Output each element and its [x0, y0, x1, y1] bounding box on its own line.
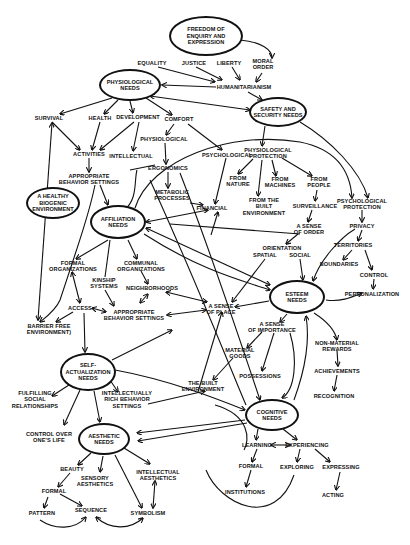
ellipse-node-aesthetic: AESTHETIC NEEDS: [78, 423, 130, 455]
edge-arrow: [60, 494, 82, 506]
text-node-from-nature: FROM NATURE: [226, 175, 250, 188]
edge-arrow: [258, 160, 262, 196]
text-node-beauty: BEAUTY: [60, 466, 84, 472]
edge-arrow: [96, 517, 143, 527]
edge-arrow: [84, 313, 85, 352]
edge-arrow: [235, 301, 269, 307]
edge-arrow: [365, 250, 372, 270]
ellipse-node-physiological: PHYSIOLOGICAL NEEDS: [99, 69, 161, 101]
text-node-ergonomics: ERGONOMICS: [148, 165, 188, 171]
text-node-financial: FINANCIAL: [196, 205, 227, 211]
edge-arrow: [64, 390, 80, 425]
node-label: COGNITIVE NEEDS: [257, 409, 288, 422]
text-node-liberty: LIBERTY: [217, 60, 242, 66]
text-node-built-env: THE BUILT ENVIRONMENT: [182, 380, 224, 393]
edge-arrow: [313, 229, 355, 281]
node-label: A HEALTHY BIOGENIC ENVIRONMENT: [32, 193, 73, 212]
edge-arrow: [358, 230, 362, 241]
text-node-privacy: PRIVACY: [349, 223, 374, 229]
text-node-physiological-comfort: PHYSIOLOGICAL: [140, 136, 188, 142]
edge-arrow: [76, 240, 108, 259]
edge-arrow: [314, 313, 337, 340]
edge-arrow: [104, 100, 118, 114]
text-node-from-people: FROM PEOPLE: [307, 176, 330, 189]
node-label: AESTHETIC NEEDS: [88, 433, 120, 446]
text-node-appropriate-behavior-1: APPROPRIATE BEHAVIOR SETTINGS: [59, 173, 119, 186]
edge-arrow: [124, 170, 137, 210]
edge-arrow: [105, 240, 110, 277]
text-node-control-life: CONTROL OVER ONE'S LIFE: [26, 431, 72, 444]
text-node-fulfilling: FULFILLING SOCIAL RELATIONSHIPS: [12, 390, 58, 409]
text-node-from-built: FROM THE BUILT ENVIRONMENT: [243, 197, 285, 216]
text-node-surveillance: SURVEILLANCE: [293, 203, 338, 209]
node-label: ESTEEM NEEDS: [285, 291, 308, 304]
edge-arrow: [262, 333, 274, 371]
text-node-kinship: KINSHIP SYSTEMS: [90, 277, 117, 290]
edge-arrow: [124, 448, 150, 464]
text-node-control: CONTROL: [360, 272, 388, 278]
edge-arrow: [297, 449, 300, 462]
text-node-institutions: INSTITUTIONS: [225, 489, 265, 495]
text-node-recognition: RECOGNITION: [314, 393, 355, 399]
edge-arrow: [146, 228, 270, 285]
edge-arrow: [115, 455, 142, 508]
edge-arrow: [150, 180, 246, 405]
edge-arrow: [100, 122, 134, 150]
edge-arrow: [256, 429, 258, 440]
ellipse-node-healthy-env: A HEALTHY BIOGENIC ENVIRONMENT: [26, 187, 80, 219]
text-node-activities: ACTIVITIES: [73, 151, 105, 157]
text-node-pattern: PATTERN: [29, 510, 55, 516]
ellipse-node-safety: SAFETY AND SECURITY NEEDS: [249, 97, 307, 127]
edge-arrow: [40, 517, 86, 527]
text-node-territories: TERRITORIES: [334, 242, 373, 248]
text-node-from-machines: FROM MACHINES: [265, 176, 296, 189]
text-node-communal-org: COMMUNAL ORGANIZATIONS: [117, 260, 165, 273]
text-node-intellectual-aes: INTELLECTUAL AESTHETICS: [136, 469, 179, 482]
text-node-possessions: POSSESSIONS: [239, 373, 281, 379]
text-node-survival: SURVIVAL: [35, 115, 64, 121]
edge-arrow: [272, 160, 276, 176]
text-node-appropriate-behavior-2: APPROPRIATE BEHAVIOR SETTINGS: [104, 309, 164, 322]
text-node-sense-importance: A SENSE OF IMPORTANCE: [248, 321, 296, 334]
edge-arrow: [112, 330, 172, 360]
ellipse-node-esteem: ESTEEM NEEDS: [269, 280, 325, 314]
edge-arrow: [148, 391, 205, 404]
edge-arrow: [105, 290, 114, 306]
text-node-experiencing: EXPERIENCING: [285, 442, 328, 448]
edge-arrow: [247, 332, 262, 348]
edge-arrow: [167, 310, 206, 315]
text-node-moral-order: MORAL ORDER: [252, 58, 273, 71]
edge-arrow: [141, 271, 148, 284]
text-node-personalization: PERSONALIZATION: [345, 291, 400, 297]
edge-arrow: [100, 185, 108, 205]
edge-arrow: [92, 122, 100, 150]
text-node-expressing: EXPRESSING: [322, 464, 359, 470]
text-node-formal-org: FORMAL ORGANIZATIONS: [49, 260, 97, 273]
ellipse-node-freedom: FREEDOM OF ENQUIRY AND EXPRESSION: [169, 16, 243, 56]
text-node-sense-place: A SENSE OF PLACE: [206, 303, 235, 316]
text-node-social: SOCIAL: [289, 252, 311, 258]
edge-arrow: [100, 456, 103, 472]
edge-arrow: [315, 190, 317, 201]
edge-arrow: [246, 470, 251, 487]
edge-arrow: [286, 234, 298, 244]
text-node-justice: JUSTICE: [182, 60, 206, 66]
edge-arrow: [138, 423, 247, 441]
text-node-symbolism: SYMBOLISM: [131, 510, 166, 516]
text-node-material-goods: MATERIAL GOODS: [225, 347, 254, 360]
edge-arrow: [165, 143, 166, 164]
edge-arrow: [334, 375, 337, 391]
text-node-sensory: SENSORY AESTHETICS: [77, 475, 113, 488]
ellipse-node-affiliation: AFFILIATION NEEDS: [90, 205, 146, 239]
text-node-achievements: ACHIEVEMENTS: [314, 368, 360, 374]
text-node-phys-protection: PHYSIOLOGICAL PROTECTION: [244, 147, 292, 160]
edge-arrow: [158, 67, 215, 82]
text-node-metabolic: METABOLIC PROCESSES: [154, 189, 190, 202]
edge-arrow: [94, 391, 100, 422]
edge-arrow: [38, 123, 52, 320]
node-label: SELF- ACTUALIZATION NEEDS: [66, 362, 111, 381]
node-label: AFFILIATION NEEDS: [101, 216, 135, 229]
edge-arrow: [283, 429, 297, 440]
text-node-neighborhoods: NEIGHBORHOODS: [126, 285, 178, 291]
edge-arrow: [146, 98, 172, 115]
